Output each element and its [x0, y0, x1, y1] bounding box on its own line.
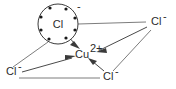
lewis-chloride-group: Cl -: [38, 0, 81, 44]
chloride-symbol: Cl: [151, 15, 161, 27]
line-lewis-chloride-to-top-right-chloride: [78, 22, 146, 24]
central-copper-ion: Cu 2+: [75, 42, 103, 60]
arrow-bottom-left-chloride-to-copper: [22, 55, 76, 72]
chloride-symbol: Cl: [103, 70, 113, 82]
chloride-charge: -: [115, 65, 119, 77]
electron-dot: [47, 37, 50, 40]
line-top-right-chloride-to-bottom-center-chloride: [113, 30, 151, 71]
arrow-bottom-center-chloride-to-copper: [88, 58, 104, 71]
copper-symbol: Cu: [75, 48, 89, 60]
chloride-symbol: Cl: [6, 65, 16, 77]
electron-dot: [39, 28, 42, 31]
lewis-chloride-symbol: Cl: [53, 18, 63, 30]
lewis-chloride-charge: -: [77, 0, 81, 12]
electron-dot: [64, 36, 67, 39]
ligand-chloride-bottom-center: Cl -: [103, 65, 119, 82]
electron-dot: [73, 16, 76, 19]
ligand-chloride-top-right: Cl -: [151, 10, 167, 27]
chemistry-diagram-canvas: Cl - Cu 2+ Cl - Cl - Cl -: [0, 0, 176, 89]
arrow-shaft: [100, 27, 147, 50]
arrow-shaft: [22, 58, 72, 72]
electron-dot: [48, 6, 51, 9]
electron-dot: [39, 15, 42, 18]
electron-dot: [64, 7, 67, 10]
electron-dot: [73, 28, 76, 31]
coordination-diagram-svg: Cl - Cu 2+ Cl - Cl - Cl -: [0, 0, 176, 89]
ligand-chloride-bottom-left: Cl -: [6, 60, 22, 77]
chloride-charge: -: [163, 10, 167, 22]
arrow-top-right-chloride-to-copper: [96, 27, 147, 53]
chloride-charge: -: [18, 60, 22, 72]
copper-charge: 2+: [90, 42, 103, 54]
